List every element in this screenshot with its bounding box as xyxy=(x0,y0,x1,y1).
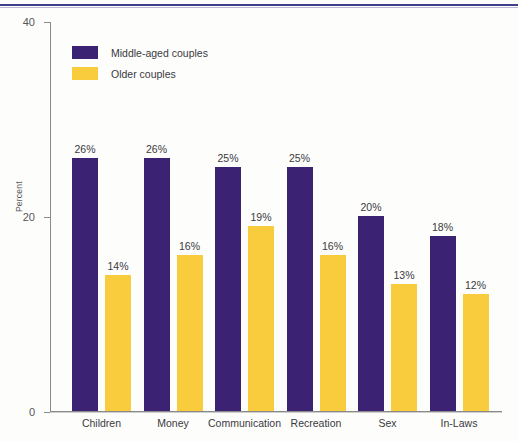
page-top-rule xyxy=(0,4,518,6)
bar-group: 26%14%Children xyxy=(72,21,131,411)
x-axis-category-label: Recreation xyxy=(291,417,342,429)
bar-value-label: 25% xyxy=(289,152,310,164)
bar-fill xyxy=(105,275,131,412)
x-axis-category-label: Sex xyxy=(378,417,396,429)
x-axis-category-label: Money xyxy=(157,417,189,429)
bar[interactable]: 12% xyxy=(463,294,489,411)
bar[interactable]: 20% xyxy=(358,216,384,411)
bar-fill xyxy=(463,294,489,411)
bar-fill xyxy=(358,216,384,411)
bar-value-label: 12% xyxy=(465,279,486,291)
x-axis-line-shadow xyxy=(50,412,502,413)
bar-fill xyxy=(72,158,98,412)
bar-group: 18%12%In-Laws xyxy=(430,21,489,411)
bar-fill xyxy=(215,167,241,411)
bar-value-label: 20% xyxy=(360,201,381,213)
y-tick-20: 20 xyxy=(44,217,50,218)
bar-fill xyxy=(320,255,346,411)
bar[interactable]: 18% xyxy=(430,236,456,412)
bar-group: 25%16%Recreation xyxy=(287,21,346,411)
bar[interactable]: 25% xyxy=(287,167,313,411)
page-top-rule-hairline xyxy=(0,7,518,8)
y-tick-0: 0 xyxy=(44,412,50,413)
bar[interactable]: 13% xyxy=(391,284,417,411)
bar-group: 26%16%Money xyxy=(144,21,203,411)
bar-chart-figure: Percent 40 20 0 Middle-aged couples Olde… xyxy=(0,0,518,442)
x-axis-category-label: Communication xyxy=(208,417,281,429)
y-axis-line xyxy=(50,22,51,412)
x-axis-category-label: Children xyxy=(82,417,121,429)
bar-value-label: 26% xyxy=(146,143,167,155)
y-tick-label-0: 0 xyxy=(29,406,35,418)
bar-value-label: 18% xyxy=(432,221,453,233)
bar-group: 25%19%Communication xyxy=(215,21,274,411)
y-tick-label-20: 20 xyxy=(23,211,35,223)
bar-fill xyxy=(287,167,313,411)
x-axis-category-label: In-Laws xyxy=(441,417,478,429)
bar[interactable]: 16% xyxy=(320,255,346,411)
bar-fill xyxy=(391,284,417,411)
bar-value-label: 26% xyxy=(74,143,95,155)
y-tick-40: 40 xyxy=(44,22,50,23)
y-axis-title: Percent xyxy=(14,181,24,212)
bar-group: 20%13%Sex xyxy=(358,21,417,411)
bar-value-label: 16% xyxy=(179,240,200,252)
bar-fill xyxy=(144,158,170,412)
bar[interactable]: 26% xyxy=(72,158,98,412)
bar[interactable]: 16% xyxy=(177,255,203,411)
bar-value-label: 16% xyxy=(322,240,343,252)
bar-value-label: 13% xyxy=(393,269,414,281)
bar[interactable]: 26% xyxy=(144,158,170,412)
bar-fill xyxy=(177,255,203,411)
bar-value-label: 14% xyxy=(107,260,128,272)
bar-value-label: 19% xyxy=(250,211,271,223)
bar[interactable]: 14% xyxy=(105,275,131,412)
plot-area: 40 20 0 Middle-aged couples Older couple… xyxy=(50,22,502,412)
bar[interactable]: 19% xyxy=(248,226,274,411)
y-tick-label-40: 40 xyxy=(23,16,35,28)
bar-fill xyxy=(430,236,456,412)
bar-fill xyxy=(248,226,274,411)
bar[interactable]: 25% xyxy=(215,167,241,411)
bar-value-label: 25% xyxy=(217,152,238,164)
